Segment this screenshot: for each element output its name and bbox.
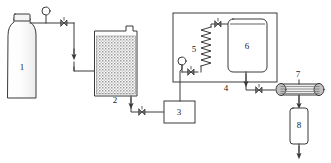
component-label-8: 8 bbox=[297, 120, 302, 130]
valve-coil-inlet[interactable] bbox=[188, 67, 194, 76]
component-label-4: 4 bbox=[224, 83, 229, 93]
gas-feed-line bbox=[74, 23, 95, 71]
heating-coil bbox=[201, 24, 229, 72]
component-label-7: 7 bbox=[296, 69, 301, 79]
component-label-1: 1 bbox=[20, 62, 25, 72]
reactor-outlet-line bbox=[246, 72, 275, 90]
valve-pump-inlet[interactable] bbox=[139, 107, 145, 116]
component-label-3: 3 bbox=[177, 107, 182, 117]
valve-cylinder-outlet[interactable] bbox=[61, 18, 67, 27]
pressure-gauge-cylinder bbox=[42, 7, 50, 15]
component-label-2: 2 bbox=[113, 95, 118, 105]
valve-condenser-inlet[interactable] bbox=[256, 85, 262, 94]
gas-cylinder bbox=[8, 14, 36, 98]
vessel2-outlet-line bbox=[131, 96, 165, 112]
valve-coil-outlet[interactable] bbox=[215, 19, 221, 28]
component-label-6: 6 bbox=[245, 41, 250, 51]
component-label-5: 5 bbox=[192, 44, 197, 54]
process-flow-diagram: 1 2 3 4 5 6 7 8 bbox=[0, 0, 331, 163]
packed-bed-vessel bbox=[95, 26, 137, 96]
diagram-canvas: 1 2 3 4 5 6 7 8 bbox=[0, 0, 331, 163]
condenser bbox=[276, 80, 324, 96]
